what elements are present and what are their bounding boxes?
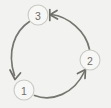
edge-1-to-2-arc	[35, 72, 85, 98]
node-1[interactable]: 1	[14, 80, 34, 100]
node-1-label: 1	[21, 85, 27, 97]
cycle-diagram: 3 2 1	[0, 0, 111, 108]
node-2-label: 2	[87, 55, 93, 67]
node-3[interactable]: 3	[28, 5, 48, 25]
cycle-diagram-canvas: 3 2 1	[0, 0, 111, 108]
edge-3-to-1-arc	[11, 22, 29, 76]
edge-1-to-2	[35, 70, 86, 98]
node-3-label: 3	[35, 10, 41, 22]
edge-3-to-1-arrowhead	[10, 70, 21, 80]
edge-3-to-1	[10, 22, 30, 80]
node-2[interactable]: 2	[80, 50, 100, 70]
edge-2-to-3	[50, 10, 90, 50]
